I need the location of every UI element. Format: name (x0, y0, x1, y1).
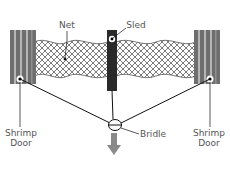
right-shrimp-door-label: Shrimp Door (191, 128, 227, 148)
net-label: Net (57, 20, 77, 30)
left-door-label-line2: Door (3, 138, 39, 148)
tow-direction-arrow-icon (107, 133, 121, 155)
right-door-label-line2: Door (191, 138, 227, 148)
sled (107, 30, 117, 91)
left-door-label-line1: Shrimp (3, 128, 39, 138)
left-shrimp-door-label: Shrimp Door (3, 128, 39, 148)
net-leader-dot (64, 58, 67, 61)
sled-label: Sled (124, 20, 148, 30)
right-shrimp-door (194, 30, 220, 84)
bridle-label: Bridle (140, 129, 170, 139)
right-door-label-line1: Shrimp (191, 128, 227, 138)
bridle (108, 120, 122, 131)
left-shrimp-door (10, 30, 36, 84)
